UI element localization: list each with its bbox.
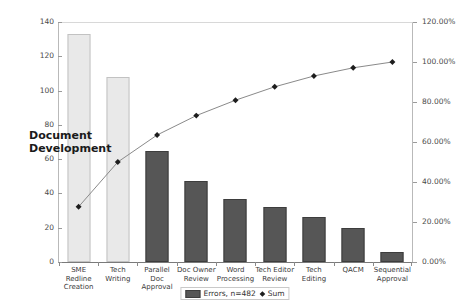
y-right-tick-mark (413, 222, 417, 223)
y-right-tick-label: 120.00% (422, 18, 455, 26)
y-right-tick-label: 0.00% (422, 258, 446, 266)
cumulative-point-marker[interactable] (154, 132, 160, 138)
y-right-tick-label: 80.00% (422, 98, 451, 106)
y-right-tick-label: 40.00% (422, 178, 451, 186)
y-right-tick-mark (413, 182, 417, 183)
pareto-chart: 020406080100120140 0.00%20.00%40.00%60.0… (0, 0, 470, 306)
y-right-tick-mark (413, 62, 417, 63)
diamond-marker-icon (260, 291, 266, 297)
y-right-tick-mark (413, 102, 417, 103)
y-right-tick-mark (413, 262, 417, 263)
x-axis-category-label: Sequential Approval (373, 266, 412, 283)
legend-label-sum: Sum (268, 289, 285, 298)
y-axis-right: 0.00%20.00%40.00%60.00%80.00%100.00%120.… (413, 0, 470, 306)
y-right-tick-mark (413, 142, 417, 143)
y-left-tick-label: 100 (28, 87, 54, 95)
y-left-tick-label: 120 (28, 52, 54, 60)
x-axis-category-label: Parallel Doc Approval (137, 266, 176, 292)
x-axis-category-label: Tech Editor Review (255, 266, 294, 283)
x-axis-category-label: Tech Writing (98, 266, 137, 283)
cumulative-line (79, 62, 393, 207)
y-right-tick-label: 20.00% (422, 218, 451, 226)
y-right-tick-mark (413, 22, 417, 23)
annotation-line-1: Document (29, 129, 92, 142)
y-left-tick-label: 140 (28, 18, 54, 26)
y-right-tick-label: 100.00% (422, 58, 455, 66)
annotation-line-2: Development (29, 142, 111, 155)
cumulative-point-marker[interactable] (350, 65, 356, 71)
cumulative-point-marker[interactable] (311, 73, 317, 79)
x-axis-category-label: Tech Editing (294, 266, 333, 283)
x-axis-category-label: Word Processing (216, 266, 255, 283)
cumulative-point-marker[interactable] (233, 97, 239, 103)
y-right-tick-label: 60.00% (422, 138, 451, 146)
y-left-tick-label: 20 (28, 224, 54, 232)
chart-legend: Errors, n=482 Sum (180, 287, 289, 300)
y-left-tick-label: 0 (28, 258, 54, 266)
x-axis-category-label: SME Redline Creation (59, 266, 98, 292)
x-axis-category-label: QACM (334, 266, 373, 275)
cumulative-point-marker[interactable] (193, 113, 199, 119)
y-left-tick-label: 40 (28, 189, 54, 197)
x-axis-category-label: Doc Owner Review (177, 266, 216, 283)
legend-item-sum[interactable]: Sum (261, 289, 285, 298)
y-left-tick-label: 60 (28, 155, 54, 163)
cumulative-point-marker[interactable] (389, 59, 395, 65)
legend-item-errors[interactable]: Errors, n=482 (185, 289, 255, 298)
cumulative-line-series (59, 22, 412, 262)
legend-label-errors: Errors, n=482 (203, 289, 255, 298)
document-development-annotation: DocumentDevelopment (29, 129, 111, 155)
y-left-tick-label: 80 (28, 121, 54, 129)
bar-swatch-icon (185, 290, 200, 298)
cumulative-point-marker[interactable] (272, 84, 278, 90)
